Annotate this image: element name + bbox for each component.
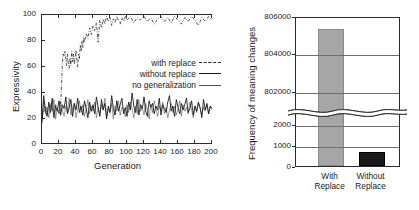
right-y-tick-0: 0 bbox=[246, 162, 291, 171]
left-x-tick-mark-top bbox=[160, 14, 161, 18]
left-chart-x-axis-title: Generation bbox=[94, 160, 141, 171]
legend-label-with-replace: with replace bbox=[151, 58, 196, 68]
right-gridline-2000 bbox=[296, 126, 399, 127]
right-y-tick-2000: 2000 bbox=[246, 120, 291, 129]
left-y-tick-20: 20 bbox=[8, 113, 36, 122]
right-y-tick-802000: 802000 bbox=[246, 87, 291, 96]
left-chart-legend: with replace without replace no generali… bbox=[96, 57, 221, 90]
left-x-tick-200: 200 bbox=[199, 147, 223, 156]
right-y-tick-mark bbox=[292, 125, 295, 126]
left-x-tick-mark bbox=[109, 140, 110, 144]
legend-item-no-generalization: no generalization bbox=[96, 79, 221, 90]
right-y-tick-mark bbox=[292, 92, 295, 93]
left-x-tick-mark-top bbox=[109, 14, 110, 18]
bar-with-replace bbox=[318, 29, 344, 166]
bar-without-replace bbox=[359, 152, 385, 166]
right-category-label-1: WithoutReplace bbox=[343, 171, 399, 191]
right-category-1-line-0: Without bbox=[343, 171, 399, 181]
right-category-1-line-1: Replace bbox=[343, 181, 399, 191]
left-y-tick-100: 100 bbox=[8, 9, 36, 18]
left-y-tick-80: 80 bbox=[8, 35, 36, 44]
left-x-tick-mark bbox=[177, 140, 178, 144]
right-gridline-1000 bbox=[296, 147, 399, 148]
left-y-tick-mark bbox=[41, 40, 45, 41]
right-y-tick-mark bbox=[292, 54, 295, 55]
figure-canvas: Expressivity Generation 020406080100 020… bbox=[0, 0, 419, 210]
left-x-tick-mark-top bbox=[143, 14, 144, 18]
left-x-tick-mark bbox=[75, 140, 76, 144]
legend-item-without-replace: without replace bbox=[96, 68, 221, 79]
left-y-tick-40: 40 bbox=[8, 87, 36, 96]
legend-label-no-generalization: no generalization bbox=[132, 80, 196, 90]
left-x-tick-mark bbox=[41, 140, 42, 144]
left-y-tick-mark bbox=[41, 66, 45, 67]
left-x-tick-mark bbox=[126, 140, 127, 144]
left-x-tick-mark bbox=[92, 140, 93, 144]
left-x-tick-mark bbox=[194, 140, 195, 144]
left-x-tick-mark-top bbox=[41, 14, 42, 18]
left-x-tick-mark-top bbox=[177, 14, 178, 18]
expressivity-line-chart: Expressivity Generation 020406080100 020… bbox=[0, 0, 232, 210]
right-y-tick-mark bbox=[292, 17, 295, 18]
left-x-tick-mark-top bbox=[58, 14, 59, 18]
left-y-tick-mark bbox=[41, 92, 45, 93]
right-chart-plot-area bbox=[295, 17, 400, 167]
right-y-tick-1000: 1000 bbox=[246, 141, 291, 150]
right-gridline-802000 bbox=[296, 93, 399, 94]
left-x-tick-mark-top bbox=[211, 14, 212, 18]
left-x-tick-mark bbox=[58, 140, 59, 144]
legend-item-with-replace: with replace bbox=[96, 57, 221, 68]
right-y-tick-806000: 806000 bbox=[246, 12, 291, 21]
left-x-tick-mark bbox=[160, 140, 161, 144]
right-y-tick-804000: 804000 bbox=[246, 49, 291, 58]
right-y-tick-mark bbox=[292, 167, 295, 168]
left-x-tick-mark-top bbox=[126, 14, 127, 18]
legend-swatch-solid-icon bbox=[199, 70, 221, 78]
left-x-tick-mark-top bbox=[75, 14, 76, 18]
left-y-tick-60: 60 bbox=[8, 61, 36, 70]
meaning-changes-bar-chart: Frequency of meaning changes 80200080400… bbox=[232, 0, 419, 210]
left-y-tick-mark bbox=[41, 118, 45, 119]
right-y-tick-mark bbox=[292, 146, 295, 147]
legend-swatch-dash-dot-icon bbox=[199, 59, 221, 67]
left-x-tick-mark bbox=[143, 140, 144, 144]
legend-label-without-replace: without replace bbox=[140, 69, 196, 79]
legend-swatch-thin-solid-icon bbox=[199, 81, 221, 89]
left-x-tick-mark-top bbox=[92, 14, 93, 18]
left-x-tick-mark bbox=[211, 140, 212, 144]
right-gridline-804000 bbox=[296, 55, 399, 56]
left-x-tick-mark-top bbox=[194, 14, 195, 18]
